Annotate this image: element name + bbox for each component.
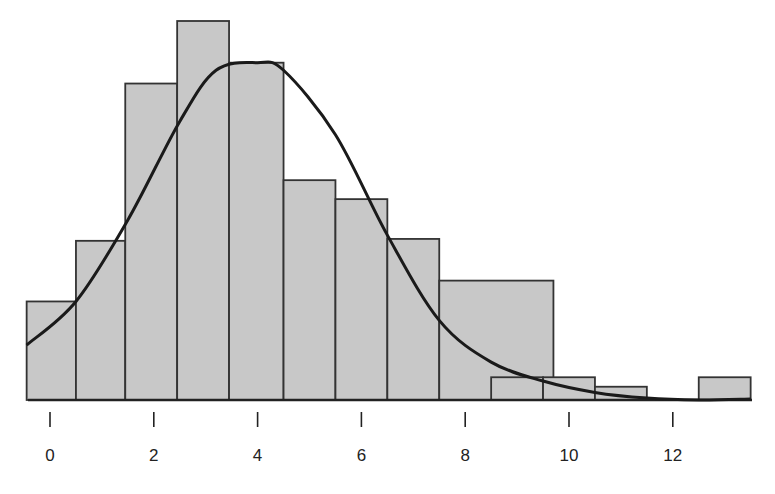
histogram-bar [229, 63, 283, 400]
histogram-bar [491, 377, 543, 400]
x-tick-label: 12 [663, 446, 682, 465]
x-tick-label: 4 [253, 446, 262, 465]
x-tick-label: 0 [45, 446, 54, 465]
x-tick-label: 8 [460, 446, 469, 465]
histogram-chart: 024681012 [0, 0, 775, 494]
x-tick-label: 2 [149, 446, 158, 465]
histogram-bar [699, 377, 751, 400]
histogram-bar [387, 239, 439, 400]
histogram-bar [284, 180, 336, 400]
histogram-bar [335, 199, 387, 400]
x-tick-label: 6 [357, 446, 366, 465]
histogram-bar [177, 21, 229, 400]
x-tick-label: 10 [560, 446, 579, 465]
x-axis: 024681012 [45, 412, 682, 465]
histogram-bars [27, 21, 751, 400]
histogram-bar [27, 301, 76, 400]
histogram-bar [125, 84, 177, 400]
